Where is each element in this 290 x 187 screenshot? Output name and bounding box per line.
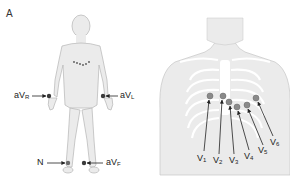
label-v1: V1 [197,154,206,163]
electrode-v2 [220,93,226,99]
label-v5: V5 [258,146,267,155]
electrode-avf [82,161,86,165]
electrode-v1 [207,93,213,99]
electrode-v6 [253,95,259,101]
electrode-v5 [244,102,250,108]
electrode-v3 [226,99,232,105]
label-v4: V4 [244,152,253,161]
label-n: N [37,158,44,167]
electrode-avl [101,94,105,98]
electrode-n [66,161,70,165]
label-avf: aVF [106,158,121,167]
label-v6: V6 [270,138,279,147]
label-avl: aVL [120,91,134,100]
electrode-avr [47,94,51,98]
label-v2: V2 [213,156,222,165]
electrode-v4 [234,104,240,110]
label-v3: V3 [229,156,238,165]
ecg-electrode-diagram: A [0,0,290,187]
label-avr: aVR [14,91,29,100]
